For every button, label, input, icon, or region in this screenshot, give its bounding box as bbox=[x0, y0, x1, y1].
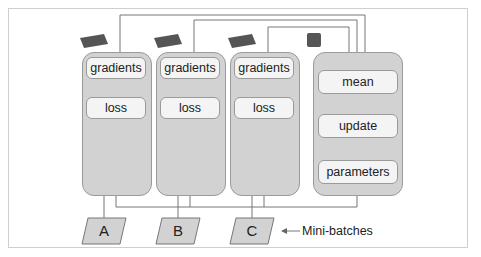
loss-box-1: loss bbox=[86, 97, 146, 119]
loss-box-2: loss bbox=[160, 97, 220, 119]
parameters-box: parameters bbox=[318, 160, 398, 184]
gradients-box-3: gradients bbox=[234, 57, 294, 79]
gradients-box-2: gradients bbox=[160, 57, 220, 79]
gpu-card-icon bbox=[80, 34, 256, 48]
gradients-box-1: gradients bbox=[86, 57, 146, 79]
mini-batches-annotation: Mini-batches bbox=[302, 224, 373, 238]
batch-b-label: B bbox=[160, 218, 196, 244]
loss-box-3: loss bbox=[234, 97, 294, 119]
batch-c-label: C bbox=[234, 218, 270, 244]
update-box: update bbox=[318, 114, 398, 138]
mean-box: mean bbox=[318, 70, 398, 94]
cpu-chip-icon bbox=[307, 33, 321, 47]
batch-a-label: A bbox=[86, 218, 122, 244]
